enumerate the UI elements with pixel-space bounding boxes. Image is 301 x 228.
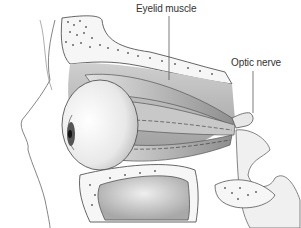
optic-nerve [232, 113, 253, 128]
eye-anatomy-illustration [0, 0, 301, 228]
sphenoid-bone [236, 130, 300, 228]
eyelid-muscle-label: Eyelid muscle [136, 3, 196, 14]
eye-anatomy-figure: Eyelid muscle Optic nerve [0, 0, 301, 228]
optic-nerve-label: Optic nerve [231, 57, 281, 68]
face-profile [21, 20, 55, 228]
pupil [68, 130, 72, 138]
maxillary-sinus [98, 176, 190, 220]
